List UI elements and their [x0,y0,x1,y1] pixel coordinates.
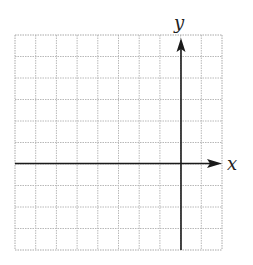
x-axis-label: x [227,153,237,174]
grid [15,35,222,250]
y-axis-label: y [173,12,185,33]
coordinate-plane: x y [0,0,253,265]
